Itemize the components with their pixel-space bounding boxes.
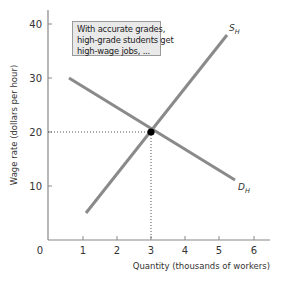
- x-tick-label-5: 5: [216, 245, 222, 256]
- y-tick-label-40: 40: [29, 19, 42, 30]
- y-tick-label-10: 10: [29, 181, 42, 192]
- demand-curve-label: DH: [238, 182, 250, 195]
- x-tick-label-2: 2: [114, 245, 120, 256]
- x-tick-label-3: 3: [148, 245, 154, 256]
- supply-curve: [86, 35, 227, 213]
- y-tick-label-30: 30: [29, 73, 42, 84]
- x-tick-label-4: 4: [182, 245, 188, 256]
- annotation-box: With accurate grades, high-grade student…: [72, 21, 161, 56]
- y-tick-label-20: 20: [29, 127, 42, 138]
- annotation-line-3: high-wage jobs, ...: [77, 46, 156, 57]
- origin-label: 0: [37, 245, 43, 256]
- x-tick-label-1: 1: [80, 245, 86, 256]
- annotation-line-1: With accurate grades,: [77, 24, 156, 35]
- supply-curve-label: SH: [229, 23, 240, 36]
- x-axis-title: Quantity (thousands of workers): [133, 261, 270, 271]
- annotation-line-2: high-grade students get: [77, 35, 156, 46]
- x-tick-label-6: 6: [251, 245, 257, 256]
- equilibrium-point: [147, 128, 154, 135]
- y-axis-title: Wage rate (dollars per hour): [9, 65, 19, 185]
